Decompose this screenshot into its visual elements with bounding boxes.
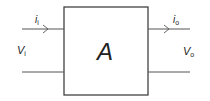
input-current-label: ii xyxy=(35,15,39,26)
output-voltage-label: Vo xyxy=(183,46,194,58)
block-label: A xyxy=(97,40,113,64)
output-current-label: io xyxy=(173,15,179,26)
input-voltage-label: Vi xyxy=(17,45,26,57)
